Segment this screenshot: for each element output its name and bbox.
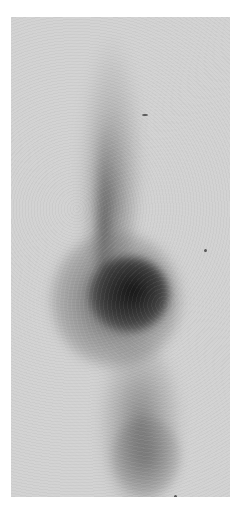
artifact-speck	[142, 114, 148, 116]
artifact-speck	[174, 495, 177, 497]
scan-image	[11, 17, 230, 497]
artifact-speck	[204, 249, 207, 252]
lower-uptake-tail	[111, 417, 181, 497]
central-hotspot	[89, 257, 169, 332]
